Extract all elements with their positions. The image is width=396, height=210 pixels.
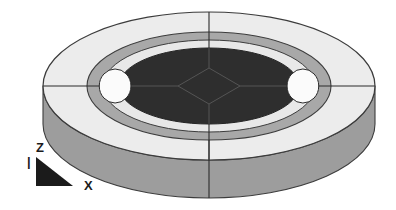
right-notch [287,69,319,103]
figure-canvas: | Z X [0,0,396,210]
axis-z-label: Z [36,140,44,155]
axis-z-tick: | [27,154,31,169]
disc-diagram: | Z X [0,0,396,210]
axis-x-label: X [84,178,93,193]
left-notch [99,69,131,103]
